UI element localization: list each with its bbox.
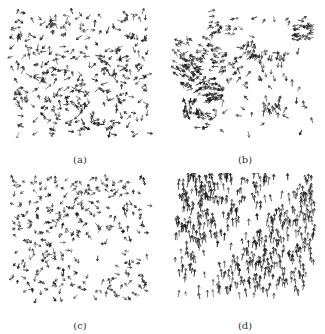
swarm-snapshot-b [171, 8, 319, 138]
swarm-snapshot-c [6, 173, 154, 303]
panel-a: (a) [6, 8, 154, 168]
panel-b: (b) [171, 8, 319, 168]
panel-d: (d) [171, 173, 319, 334]
swarm-snapshot-a [6, 8, 154, 138]
caption-c: (c) [6, 320, 154, 331]
panel-c: (c) [6, 173, 154, 334]
swarm-snapshot-d [171, 173, 319, 303]
caption-b: (b) [171, 154, 319, 165]
caption-d: (d) [171, 320, 319, 331]
caption-a: (a) [6, 154, 154, 165]
